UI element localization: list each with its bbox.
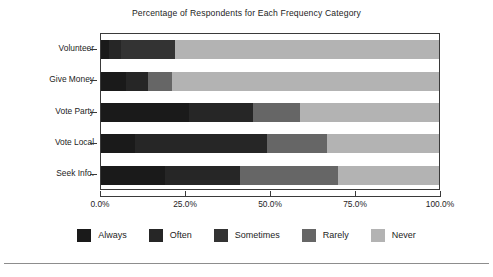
plot-area	[100, 33, 440, 190]
x-axis-tick-label: 100.0%	[410, 199, 470, 209]
x-axis-tick-label: 75.0%	[325, 199, 385, 209]
bar-segment	[165, 166, 239, 185]
y-axis-label: Volunteer	[6, 43, 94, 53]
legend-item[interactable]: Never	[371, 229, 416, 242]
x-axis-tick	[355, 191, 356, 197]
legend-item[interactable]: Rarely	[302, 229, 349, 242]
legend-label: Never	[392, 230, 416, 240]
y-axis-label: Give Money	[6, 74, 94, 84]
bar-segment	[338, 166, 439, 185]
y-axis-tick	[90, 174, 97, 175]
legend-label: Always	[98, 230, 127, 240]
bar-segment	[148, 72, 172, 91]
chart-legend: AlwaysOftenSometimesRarelyNever	[0, 224, 493, 246]
bar-stack	[101, 166, 439, 185]
legend-item[interactable]: Often	[149, 229, 192, 242]
bar-stack	[101, 103, 439, 122]
bars-container	[101, 34, 439, 189]
legend-label: Often	[170, 230, 192, 240]
x-axis-tick	[185, 191, 186, 197]
legend-label: Sometimes	[235, 230, 280, 240]
bar-row	[101, 72, 439, 91]
bar-segment	[126, 72, 148, 91]
bar-segment	[253, 103, 300, 122]
bar-row	[101, 103, 439, 122]
bar-stack	[101, 134, 439, 153]
y-axis-tick	[90, 49, 97, 50]
y-axis-label: Vote Local	[6, 137, 94, 147]
bar-row	[101, 134, 439, 153]
bar-segment	[121, 40, 175, 59]
bar-segment	[189, 103, 253, 122]
legend-swatch-icon	[302, 229, 316, 242]
x-axis-tick-label: 50.0%	[240, 199, 300, 209]
legend-item[interactable]: Sometimes	[214, 229, 280, 242]
y-axis-label: Vote Party	[6, 106, 94, 116]
x-axis-tick-label: 0.0%	[70, 199, 130, 209]
x-axis-tick	[100, 191, 101, 197]
legend-swatch-icon	[149, 229, 163, 242]
bar-segment	[135, 134, 267, 153]
bar-row	[101, 40, 439, 59]
bar-stack	[101, 40, 439, 59]
x-axis-tick	[270, 191, 271, 197]
bar-segment	[240, 166, 338, 185]
y-axis-tick	[90, 143, 97, 144]
y-axis-tick	[90, 80, 97, 81]
y-axis-tick	[90, 112, 97, 113]
bar-segment	[172, 72, 439, 91]
bar-segment	[109, 40, 121, 59]
bar-segment	[101, 40, 109, 59]
footer-divider	[4, 263, 489, 264]
chart-title: Percentage of Respondents for Each Frequ…	[0, 8, 493, 18]
chart-figure: Percentage of Respondents for Each Frequ…	[0, 0, 493, 277]
legend-swatch-icon	[77, 229, 91, 242]
legend-item[interactable]: Always	[77, 229, 127, 242]
legend-swatch-icon	[214, 229, 228, 242]
bar-segment	[101, 166, 165, 185]
bar-segment	[267, 134, 328, 153]
bar-segment	[300, 103, 439, 122]
bar-segment	[175, 40, 439, 59]
x-axis-tick-label: 25.0%	[155, 199, 215, 209]
bar-stack	[101, 72, 439, 91]
y-axis: VolunteerGive MoneyVote PartyVote LocalS…	[0, 33, 94, 190]
bar-segment	[101, 134, 135, 153]
y-axis-label: Seek Info.	[6, 168, 94, 178]
legend-swatch-icon	[371, 229, 385, 242]
bar-segment	[101, 103, 189, 122]
bar-segment	[327, 134, 439, 153]
legend-label: Rarely	[323, 230, 349, 240]
bar-row	[101, 166, 439, 185]
bar-segment	[101, 72, 126, 91]
x-axis-tick	[440, 191, 441, 197]
